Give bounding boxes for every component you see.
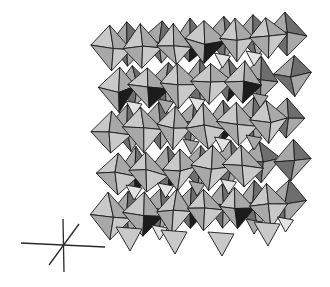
octahedron-face bbox=[96, 172, 118, 195]
octahedron-face bbox=[293, 139, 311, 160]
octahedron-face bbox=[261, 57, 278, 82]
octahedron-face bbox=[287, 98, 305, 118]
axes-indicator bbox=[21, 219, 105, 272]
octahedron-face bbox=[254, 222, 280, 246]
octahedron-face bbox=[91, 132, 111, 153]
octahedron-face bbox=[274, 139, 295, 162]
octahedron-face bbox=[286, 118, 305, 138]
octahedron-face bbox=[208, 232, 234, 256]
octahedra-framework bbox=[90, 12, 311, 256]
octahedron-face bbox=[91, 111, 112, 132]
octahedron-face bbox=[161, 230, 187, 254]
crystal-structure-figure bbox=[0, 0, 330, 287]
octahedron-face bbox=[91, 45, 113, 71]
octahedron-face bbox=[90, 215, 113, 240]
octahedron-face bbox=[116, 227, 142, 251]
octahedron-face bbox=[287, 32, 307, 56]
octahedron-face bbox=[291, 158, 311, 180]
